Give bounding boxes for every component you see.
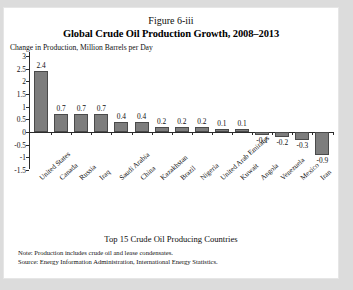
- figure-note: Note: Production includes crude oil and …: [18, 249, 338, 257]
- bar-value-label: 0.7: [57, 104, 66, 113]
- bar: [315, 132, 329, 155]
- category-label: Nigeria: [199, 162, 220, 182]
- x-tick-mark: [212, 132, 213, 135]
- x-tick-mark: [252, 132, 253, 135]
- category-label: Russia: [78, 163, 98, 182]
- bar-value-label: -0.2: [276, 138, 288, 147]
- bar-value-label: 0.2: [157, 117, 166, 126]
- x-tick-mark: [152, 132, 153, 135]
- bar-value-label: 0.7: [77, 104, 86, 113]
- bar-value-label: 0.2: [177, 117, 186, 126]
- bar: [255, 132, 269, 135]
- bar: [34, 71, 48, 132]
- bar-value-label: 0.4: [117, 112, 126, 121]
- x-tick-mark: [333, 132, 334, 135]
- figure-title: Global Crude Oil Production Growth, 2008…: [4, 27, 338, 40]
- x-tick-mark: [51, 132, 52, 135]
- x-tick-mark: [132, 132, 133, 135]
- x-axis-caption: Top 15 Crude Oil Producing Countries: [4, 234, 338, 244]
- figure-number: Figure 6-iii: [4, 15, 338, 27]
- x-tick-mark: [272, 132, 273, 135]
- bar: [295, 132, 309, 140]
- y-tick-label: -0.5: [14, 140, 26, 149]
- x-tick-mark: [71, 132, 72, 135]
- document-page: Figure 6-iii Global Crude Oil Production…: [4, 8, 338, 278]
- category-label: Brazil: [179, 164, 197, 182]
- x-tick-mark: [111, 132, 112, 135]
- bar: [275, 132, 289, 137]
- bar-value-label: 0.4: [137, 112, 146, 121]
- x-tick-mark: [192, 132, 193, 135]
- bar-value-label: -0.9: [317, 156, 329, 165]
- bar: [114, 122, 128, 132]
- y-axis-labels: 32.521.510.50-0.5-1-1.5: [4, 52, 28, 232]
- bar-value-label: 0.7: [97, 104, 106, 113]
- figure-source: Source: Energy Information Administratio…: [18, 258, 338, 266]
- category-label: Iraq: [98, 168, 112, 182]
- y-tick-mark: [26, 170, 29, 171]
- bar-value-label: 0.1: [237, 119, 246, 128]
- y-tick-label: 0.5: [17, 115, 26, 124]
- x-tick-mark: [292, 132, 293, 135]
- y-axis-title: Change in Production, Million Barrels pe…: [10, 43, 338, 52]
- x-tick-mark: [91, 132, 92, 135]
- bar-value-label: 2.4: [36, 61, 45, 70]
- x-tick-mark: [232, 132, 233, 135]
- bar: [215, 129, 229, 132]
- bar: [175, 127, 189, 132]
- bar: [135, 122, 149, 132]
- bar: [54, 114, 68, 132]
- y-axis-line: [29, 52, 30, 169]
- bar: [195, 127, 209, 132]
- category-label: Iran: [319, 168, 333, 182]
- bar: [94, 114, 108, 132]
- y-tick-label: -1.5: [14, 166, 26, 175]
- y-tick-label: 2.5: [17, 64, 26, 73]
- bar-value-label: -0.3: [296, 141, 308, 150]
- bar-value-label: 0.1: [217, 119, 226, 128]
- category-label: Angola: [259, 162, 280, 182]
- x-tick-mark: [172, 132, 173, 135]
- bar-value-label: 0.2: [197, 117, 206, 126]
- bar-chart-plot: 32.521.510.50-0.5-1-1.5 2.40.70.70.70.40…: [4, 52, 338, 232]
- bar: [235, 129, 249, 132]
- bar: [74, 114, 88, 132]
- y-tick-label: 1.5: [17, 90, 26, 99]
- x-tick-mark: [312, 132, 313, 135]
- category-label: China: [139, 165, 157, 182]
- bar: [155, 127, 169, 132]
